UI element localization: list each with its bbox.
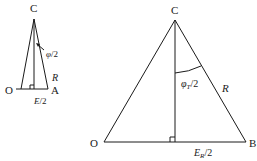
large-label-c: C [171,4,178,16]
small-label-c: C [30,2,37,14]
small-base-rest: /2 [40,96,47,106]
large-base-symbol: E [193,147,200,158]
large-label-b: B [249,137,256,149]
small-base-label: E/2 [33,96,47,106]
diagram-canvas: C O A φ/2 R E/2 C O B φT/2 R ER/2 [0,0,257,161]
small-right-angle-marker [30,85,34,89]
large-angle-label: φT/2 [181,78,198,91]
small-label-o: O [5,84,13,96]
small-side-label-r: R [51,72,58,83]
large-right-angle-marker [170,137,175,142]
large-base-rest: /2 [204,147,212,158]
small-angle-rest: /2 [51,49,58,59]
large-angle-rest: /2 [190,78,198,89]
large-angle-arc [175,66,201,73]
large-base-label: ER/2 [193,147,212,160]
large-triangle: C O B φT/2 R ER/2 [90,4,256,160]
large-side-label-r: R [221,82,229,94]
small-label-a: A [51,84,59,96]
small-angle-label: φ/2 [46,49,58,59]
small-triangle: C O A φ/2 R E/2 [5,2,59,106]
large-label-o: O [90,137,98,149]
